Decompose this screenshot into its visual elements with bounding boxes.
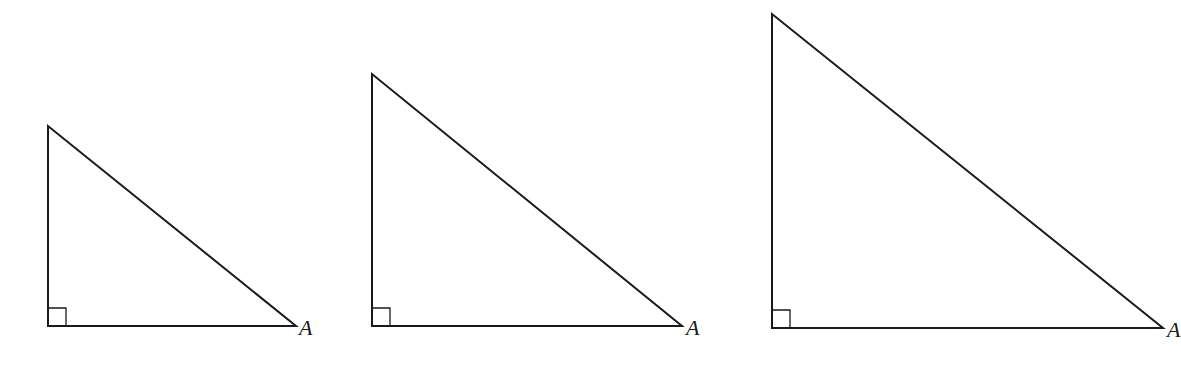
triangle-large: A bbox=[772, 14, 1181, 342]
right-angle-marker bbox=[48, 308, 66, 326]
triangle-small-outline bbox=[48, 126, 296, 326]
triangle-small: A bbox=[48, 126, 313, 340]
vertex-label-a: A bbox=[1165, 317, 1181, 342]
similar-triangles-diagram: A A A bbox=[0, 0, 1181, 366]
vertex-label-a: A bbox=[684, 315, 700, 340]
right-angle-marker bbox=[772, 310, 790, 328]
triangle-medium-outline bbox=[372, 74, 682, 326]
triangle-medium: A bbox=[372, 74, 700, 340]
triangle-large-outline bbox=[772, 14, 1163, 328]
vertex-label-a: A bbox=[297, 315, 313, 340]
right-angle-marker bbox=[372, 308, 390, 326]
